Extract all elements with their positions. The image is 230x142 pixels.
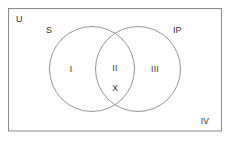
intersection-x-mark: X	[112, 84, 118, 93]
region-label-iii: III	[151, 65, 159, 74]
set-label-ip: IP	[173, 26, 182, 35]
set-label-s: S	[46, 26, 52, 35]
region-label-ii: II	[112, 64, 117, 73]
universe-label: U	[16, 15, 23, 24]
region-label-iv: IV	[201, 117, 210, 126]
venn-diagram: U S IP I II III IV X	[0, 0, 230, 142]
region-label-i: I	[70, 65, 73, 74]
set-circle-left	[50, 27, 135, 112]
set-circle-right	[96, 27, 181, 112]
